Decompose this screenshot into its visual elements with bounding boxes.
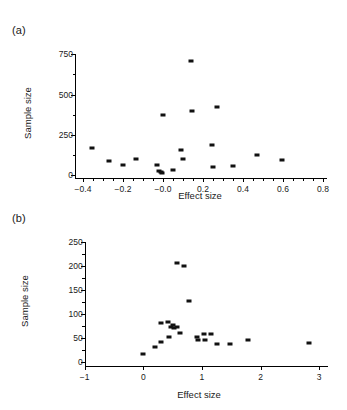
x-tick-label: 1 [200,372,205,382]
data-point [160,113,165,116]
scatter-figure: (a) −0.4−0.2−0.00.20.40.60.80250500750 E… [0,0,347,410]
x-minor-tick [113,178,114,181]
data-point [211,166,216,169]
data-point [245,338,250,341]
y-minor-tick [73,74,76,75]
x-tick [261,366,262,370]
x-tick-label: 0.8 [317,184,329,194]
data-point [141,352,146,355]
data-point [177,332,182,335]
x-minor-tick [103,178,104,181]
data-point [155,163,160,166]
y-minor-tick [82,302,85,303]
x-tick [85,366,86,370]
data-point [255,153,260,156]
x-tick-label: 2 [258,372,263,382]
x-minor-tick [193,178,194,181]
x-minor-tick [253,178,254,181]
x-tick-label: 0 [141,372,146,382]
y-minor-tick [82,278,85,279]
data-point [201,333,206,336]
data-point [187,299,192,302]
x-minor-tick [233,178,234,181]
data-point [175,261,180,264]
x-tick [163,178,164,182]
data-point [158,341,163,344]
x-tick [203,178,204,182]
panel-b-label: (b) [12,212,26,224]
x-tick [83,178,84,182]
x-minor-tick [263,178,264,181]
data-point [181,158,186,161]
x-minor-tick [133,178,134,181]
x-tick-label: −0.4 [75,184,92,194]
panel-b-plot-area: −10123050100150200250 [70,236,328,366]
x-tick [202,366,203,370]
panel-b: (b) −10123050100150200250 Effect size Sa… [0,200,347,410]
x-tick [319,366,320,370]
data-point [167,336,172,339]
y-tick-label: 100 [63,309,83,319]
y-tick-label: 750 [53,49,73,59]
data-point [174,325,179,328]
y-tick-label: 250 [53,130,73,140]
data-point [160,171,165,174]
x-tick-label: 0.4 [237,184,249,194]
x-minor-tick [313,178,314,181]
y-minor-tick [82,254,85,255]
x-tick [123,178,124,182]
x-minor-tick [143,178,144,181]
y-axis-line [85,242,86,366]
data-point [195,338,200,341]
y-minor-tick [82,326,85,327]
data-point [214,343,219,346]
y-tick-label: 150 [63,285,83,295]
data-point [121,164,126,167]
x-minor-tick [303,178,304,181]
panel-a: (a) −0.4−0.2−0.00.20.40.60.80250500750 E… [0,0,347,205]
data-point [189,59,194,62]
y-minor-tick [82,350,85,351]
data-point [210,143,215,146]
x-tick-label: −0.2 [115,184,132,194]
x-minor-tick [293,178,294,181]
data-point [159,321,164,324]
x-tick-label: −0.0 [155,184,172,194]
x-minor-tick [153,178,154,181]
y-tick-label: 500 [53,90,73,100]
data-point [134,158,139,161]
data-point [231,165,236,168]
data-point [280,159,285,162]
x-axis-line [85,366,328,367]
data-point [171,168,176,171]
panel-b-xlabel: Effect size [177,389,221,400]
y-tick-label: 250 [63,237,83,247]
data-point [106,160,111,163]
y-tick-label: 200 [63,261,83,271]
panel-a-plot-area: −0.4−0.2−0.00.20.40.60.80250500750 [73,48,327,178]
data-point [165,321,170,324]
x-minor-tick [173,178,174,181]
panel-a-ylabel: Sample size [22,87,33,139]
y-tick-label: 50 [63,333,83,343]
y-minor-tick [73,115,76,116]
y-tick-label: 0 [63,357,83,367]
data-point [179,148,184,151]
x-tick-label: 3 [317,372,322,382]
data-point [202,338,207,341]
data-point [190,109,195,112]
x-tick [143,366,144,370]
data-point [307,341,312,344]
data-point [228,342,233,345]
x-tick [243,178,244,182]
data-point [214,106,219,109]
data-point [182,264,187,267]
x-minor-tick [93,178,94,181]
x-tick-label: 0.6 [277,184,289,194]
x-minor-tick [223,178,224,181]
x-minor-tick [183,178,184,181]
data-point [90,146,95,149]
x-tick [323,178,324,182]
data-point [153,345,158,348]
x-minor-tick [273,178,274,181]
